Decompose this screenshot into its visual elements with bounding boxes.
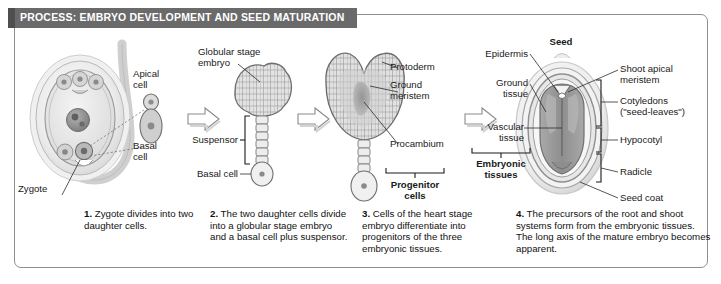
label-vascular-tissue: Vascular tissue bbox=[444, 121, 524, 144]
label-protoderm: Protoderm bbox=[390, 61, 435, 72]
banner-title: PROCESS: EMBRYO DEVELOPMENT AND SEED MAT… bbox=[20, 11, 344, 23]
stage-4-seed: Seed bbox=[468, 36, 708, 212]
caption-1-number: 1. bbox=[84, 208, 92, 219]
caption-3-text: Cells of the heart stage embryo differen… bbox=[362, 208, 472, 254]
label-seed-coat: Seed coat bbox=[620, 192, 663, 203]
label-ground-meristem: Ground meristem bbox=[390, 79, 429, 102]
figure-root: PROCESS: EMBRYO DEVELOPMENT AND SEED MAT… bbox=[0, 0, 721, 284]
label-cotyledons: Cotyledons ("seed-leaves") bbox=[620, 95, 685, 118]
label-globular-stage-embryo: Globular stage embryo bbox=[198, 46, 260, 69]
label-hypocotyl: Hypocotyl bbox=[620, 134, 662, 145]
label-basal-cell-stage2: Basal cell bbox=[138, 168, 238, 179]
caption-4-text: The precursors of the root and shoot sys… bbox=[516, 208, 710, 254]
caption-2-number: 2. bbox=[210, 208, 218, 219]
process-banner: PROCESS: EMBRYO DEVELOPMENT AND SEED MAT… bbox=[8, 8, 357, 28]
label-embryonic-tissues: Embryonic tissues bbox=[461, 158, 541, 181]
stage-1-zygote: Zygote Apical cell Basal cell bbox=[18, 40, 193, 210]
caption-4: 4. The precursors of the root and shoot … bbox=[516, 208, 712, 254]
label-suspensor: Suspensor bbox=[138, 134, 238, 145]
caption-3: 3. Cells of the heart stage embryo diffe… bbox=[362, 208, 504, 254]
caption-2-text: The two daughter cells divide into a glo… bbox=[210, 208, 347, 242]
label-epidermis: Epidermis bbox=[444, 48, 528, 59]
caption-3-number: 3. bbox=[362, 208, 370, 219]
label-procambium: Procambium bbox=[390, 138, 444, 149]
caption-2: 2. The two daughter cells divide into a … bbox=[210, 208, 350, 243]
label-radicle: Radicle bbox=[620, 166, 652, 177]
label-progenitor-cells: Progenitor cells bbox=[375, 179, 455, 202]
label-apical-cell: Apical cell bbox=[133, 68, 159, 91]
caption-1-text: Zygote divides into two daughter cells. bbox=[84, 208, 193, 231]
caption-1: 1. Zygote divides into two daughter cell… bbox=[84, 208, 202, 231]
caption-4-number: 4. bbox=[516, 208, 524, 219]
label-shoot-apical-meristem: Shoot apical meristem bbox=[620, 63, 673, 86]
label-ground-tissue: Ground tissue bbox=[444, 77, 528, 100]
caption-row: 1. Zygote divides into two daughter cell… bbox=[22, 208, 702, 260]
banner-notch bbox=[8, 8, 15, 28]
two-cell-embryo-art bbox=[18, 40, 193, 210]
